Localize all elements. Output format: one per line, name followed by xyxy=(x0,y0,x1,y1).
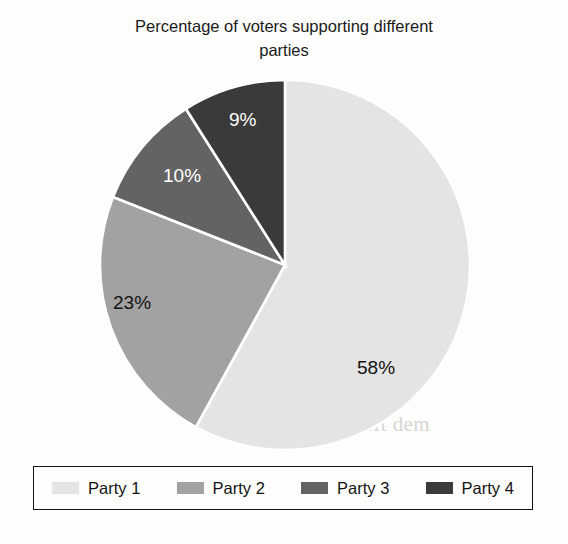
legend-item-party-1[interactable]: Party 1 xyxy=(52,479,140,498)
legend-item-party-2[interactable]: Party 2 xyxy=(177,479,265,498)
legend-swatch-icon-party-2 xyxy=(177,482,204,494)
legend-swatch-icon-party-4 xyxy=(426,482,453,494)
legend-label-party-4: Party 4 xyxy=(462,479,514,498)
pie-slice-label-party-2: 23% xyxy=(113,292,151,314)
chart-title: Percentage of voters supporting differen… xyxy=(64,14,504,62)
pie-slice-label-party-3: 10% xyxy=(163,165,201,187)
pie-chart-plot-area: 58% 23% 10% 9% xyxy=(0,70,568,450)
legend-swatch-icon-party-3 xyxy=(301,482,328,494)
chart-page: ventuali e tenden ing elect n vot. Inde … xyxy=(0,0,568,544)
pie-slice-group xyxy=(100,80,470,450)
chart-title-line-2: parties xyxy=(64,38,504,62)
legend-label-party-3: Party 3 xyxy=(337,479,389,498)
legend-swatch-icon-party-1 xyxy=(52,482,79,494)
chart-legend: Party 1 Party 2 Party 3 Party 4 xyxy=(33,466,533,510)
legend-item-party-3[interactable]: Party 3 xyxy=(301,479,389,498)
pie-slice-label-party-1: 58% xyxy=(357,357,395,379)
pie-slice-label-party-4: 9% xyxy=(229,109,256,131)
legend-label-party-2: Party 2 xyxy=(213,479,265,498)
chart-title-line-1: Percentage of voters supporting differen… xyxy=(64,14,504,38)
pie-chart-svg xyxy=(0,70,568,450)
legend-label-party-1: Party 1 xyxy=(88,479,140,498)
legend-item-party-4[interactable]: Party 4 xyxy=(426,479,514,498)
